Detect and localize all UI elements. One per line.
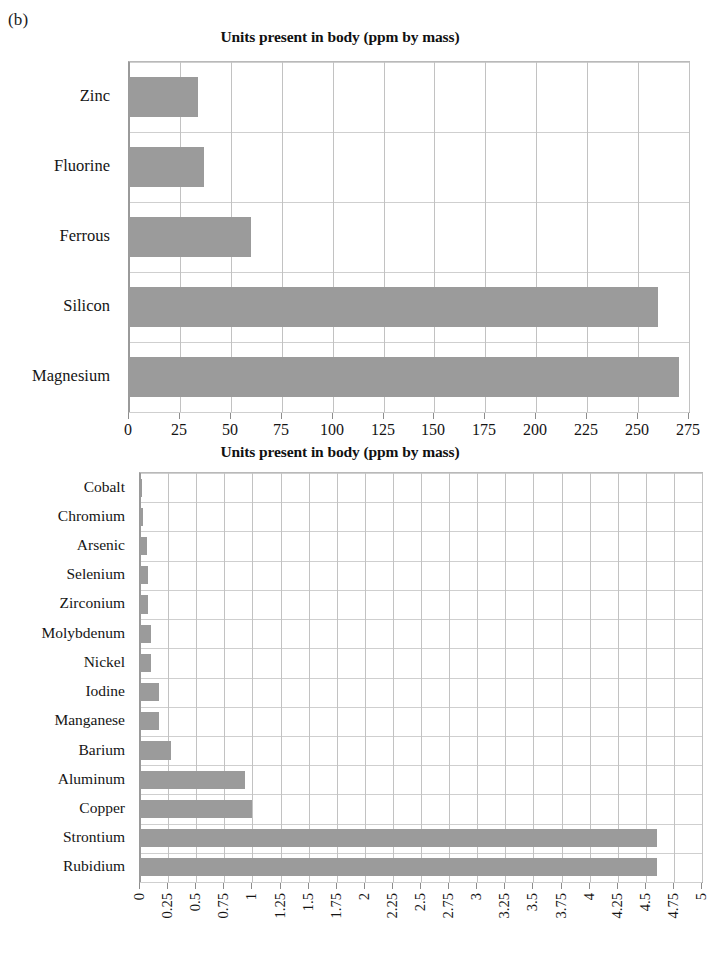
tick-mark	[561, 883, 562, 889]
tick-mark	[504, 883, 505, 889]
tick-label: 225	[574, 421, 598, 439]
bar	[140, 712, 159, 730]
tick-label: 100	[320, 421, 344, 439]
tick-label: 3.25	[496, 893, 513, 918]
tick-mark	[230, 413, 231, 419]
tick-mark	[645, 883, 646, 889]
category-label: Nickel	[84, 653, 125, 671]
tick-mark	[617, 883, 618, 889]
category-label: Selenium	[66, 565, 125, 583]
panel-label: (b)	[8, 10, 28, 30]
tick-mark	[532, 883, 533, 889]
bar	[140, 683, 159, 701]
chart-a-title: Units present in body (ppm by mass)	[20, 28, 660, 46]
category-label: Silicon	[63, 296, 110, 316]
chart-b: Units present in body (ppm by mass) Coba…	[0, 443, 721, 959]
bar	[140, 800, 252, 818]
bar	[129, 357, 679, 398]
tick-label: 4.25	[609, 893, 626, 918]
bar	[140, 537, 147, 555]
tick-mark	[139, 883, 140, 889]
tick-mark	[701, 883, 702, 889]
tick-mark	[535, 413, 536, 419]
tick-label: 1.75	[328, 893, 345, 918]
tick-mark	[251, 883, 252, 889]
tick-mark	[336, 883, 337, 889]
tick-mark	[448, 883, 449, 889]
tick-mark	[281, 413, 282, 419]
category-label: Rubidium	[63, 857, 125, 875]
tick-label: 125	[371, 421, 395, 439]
tick-label: 4	[581, 893, 598, 900]
tick-mark	[332, 413, 333, 419]
category-label: Chromium	[58, 507, 125, 525]
category-label: Manganese	[54, 711, 125, 729]
gridline-vertical	[689, 62, 690, 412]
figure-page: (b) Units present in body (ppm by mass) …	[0, 0, 721, 959]
tick-label: 4.75	[665, 893, 682, 918]
chart-b-plot-area	[139, 472, 703, 883]
tick-label: 0.5	[187, 893, 204, 911]
tick-mark	[433, 413, 434, 419]
tick-label: 175	[472, 421, 496, 439]
category-label: Iodine	[85, 682, 125, 700]
tick-label: 0.25	[159, 893, 176, 918]
tick-mark	[673, 883, 674, 889]
category-label: Zirconium	[60, 594, 125, 612]
bar	[129, 147, 204, 188]
bar	[140, 508, 143, 526]
tick-mark	[364, 883, 365, 889]
category-label: Ferrous	[60, 226, 110, 246]
tick-label: 0.75	[215, 893, 232, 918]
gridline-vertical	[702, 473, 703, 882]
tick-mark	[476, 883, 477, 889]
tick-mark	[128, 413, 129, 419]
tick-mark	[586, 413, 587, 419]
tick-mark	[223, 883, 224, 889]
bar	[140, 479, 142, 497]
tick-label: 3.75	[553, 893, 570, 918]
tick-label: 1.25	[272, 893, 289, 918]
bar	[140, 771, 245, 789]
chart-b-bars	[140, 473, 702, 882]
chart-b-title: Units present in body (ppm by mass)	[20, 443, 660, 461]
tick-label: 2	[356, 893, 373, 900]
bar	[140, 741, 171, 759]
tick-label: 150	[421, 421, 445, 439]
tick-label: 2.5	[412, 893, 429, 911]
category-label: Barium	[79, 741, 126, 759]
tick-mark	[392, 883, 393, 889]
chart-a: Units present in body (ppm by mass) Zinc…	[0, 28, 721, 428]
tick-mark	[637, 413, 638, 419]
bar	[129, 287, 658, 328]
tick-label: 2.25	[384, 893, 401, 918]
tick-mark	[589, 883, 590, 889]
chart-b-category-labels: CobaltChromiumArsenicSeleniumZirconiumMo…	[0, 472, 133, 883]
tick-label: 3	[468, 893, 485, 900]
chart-b-x-axis-ticks: 00.250.50.7511.251.51.7522.252.52.7533.2…	[139, 883, 703, 953]
chart-a-plot-area	[128, 61, 690, 413]
tick-label: 0	[131, 893, 148, 900]
category-label: Arsenic	[77, 536, 125, 554]
tick-label: 200	[523, 421, 547, 439]
category-label: Aluminum	[58, 770, 125, 788]
tick-label: 3.5	[524, 893, 541, 911]
tick-mark	[179, 413, 180, 419]
tick-mark	[167, 883, 168, 889]
bar	[140, 625, 151, 643]
tick-mark	[280, 883, 281, 889]
category-label: Cobalt	[84, 478, 125, 496]
tick-label: 1.5	[300, 893, 317, 911]
tick-label: 275	[676, 421, 700, 439]
bar	[140, 566, 148, 584]
tick-label: 4.5	[637, 893, 654, 911]
tick-mark	[688, 413, 689, 419]
category-label: Fluorine	[54, 156, 110, 176]
chart-a-category-labels: ZincFluorineFerrousSiliconMagnesium	[0, 61, 120, 413]
category-label: Zinc	[80, 86, 110, 106]
category-label: Molybdenum	[41, 624, 125, 642]
category-label: Copper	[79, 799, 125, 817]
category-label: Magnesium	[32, 366, 110, 386]
tick-mark	[420, 883, 421, 889]
tick-label: 2.75	[440, 893, 457, 918]
